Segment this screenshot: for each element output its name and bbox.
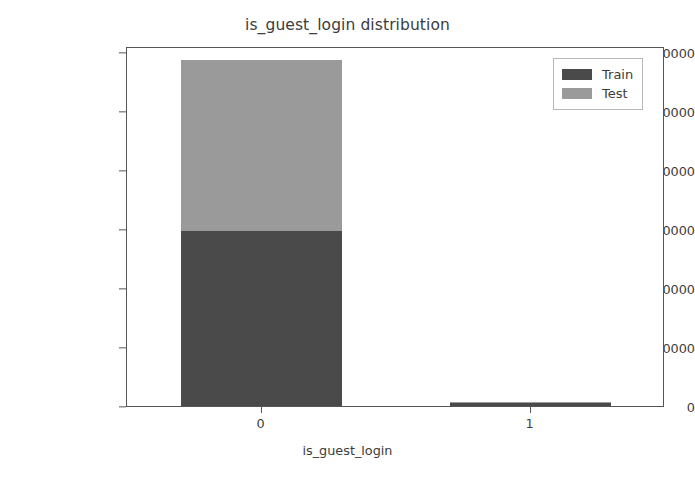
legend-label: Test [602, 86, 628, 101]
bar-segment-test[interactable] [450, 402, 611, 403]
bar-segment-train[interactable] [181, 231, 342, 406]
y-axis-tick-mark [119, 347, 126, 348]
legend-swatch-test [562, 88, 592, 99]
x-axis-label: is_guest_login [0, 443, 695, 458]
y-axis-tick-mark [119, 111, 126, 112]
bar-stack[interactable] [450, 402, 611, 406]
y-axis-tick-mark [119, 406, 126, 407]
bar-segment-test[interactable] [181, 60, 342, 231]
y-axis-tick-mark [119, 229, 126, 230]
y-axis-tick-mark [119, 52, 126, 53]
chart-legend: TrainTest [553, 58, 643, 110]
legend-swatch-train [562, 69, 592, 80]
bar-segment-train[interactable] [450, 402, 611, 406]
legend-item-train[interactable]: Train [562, 65, 633, 84]
y-axis-tick-mark [119, 170, 126, 171]
bar-stack[interactable] [181, 60, 342, 406]
x-axis-tick-mark [530, 406, 531, 413]
x-axis-tick-label: 0 [201, 416, 321, 431]
chart-figure: is_guest_login distribution Frequency is… [0, 0, 695, 484]
y-axis-tick-mark [119, 288, 126, 289]
x-axis-tick-mark [261, 406, 262, 413]
x-axis-tick-label: 1 [470, 416, 590, 431]
legend-item-test[interactable]: Test [562, 84, 633, 103]
chart-title: is_guest_login distribution [0, 16, 695, 34]
legend-label: Train [602, 67, 633, 82]
